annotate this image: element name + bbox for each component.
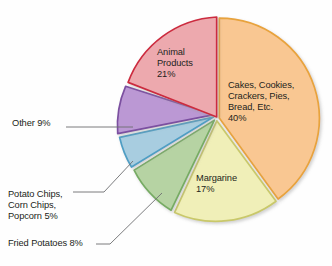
leader-line-fried-potatoes (96, 193, 162, 244)
leader-line-chips-popcorn (73, 161, 133, 192)
pie-chart-svg (0, 0, 332, 266)
callout-label-other: Other 9% (12, 118, 50, 129)
callout-label-chips-popcorn: Potato Chips, Corn Chips, Popcorn 5% (8, 189, 63, 223)
callout-label-fried-potatoes: Fried Potatoes 8% (8, 238, 83, 249)
pie-chart-figure: Cakes, Cookies, Crackers, Pies, Bread, E… (0, 0, 332, 266)
